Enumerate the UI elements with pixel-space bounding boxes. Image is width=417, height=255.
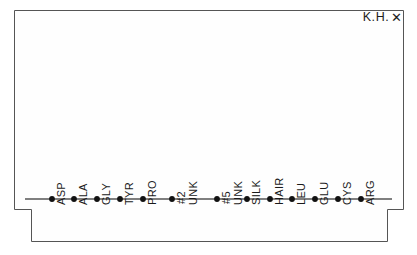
category-tick-label-line: GLU bbox=[319, 181, 331, 205]
category-tick-label-line: UNK bbox=[188, 181, 200, 205]
category-tick-label-line: PRO bbox=[147, 180, 159, 205]
figure-screenshot: K.H.✕ ASPALAGLYTYRPROUNK#2UNK#5SILKHAIRL… bbox=[0, 0, 417, 255]
category-tick-label-line: TYR bbox=[124, 182, 136, 205]
category-tick-label-line: HAIR bbox=[274, 178, 286, 205]
category-tick-label-line: SILK bbox=[251, 180, 263, 205]
category-tick-label-line: CYS bbox=[342, 181, 354, 205]
category-tick-label-line: GLY bbox=[101, 183, 113, 205]
category-tick-label-line: #2 bbox=[176, 191, 188, 204]
category-tick-label-line: UNK bbox=[233, 181, 245, 205]
category-tick-label-line: ARG bbox=[365, 180, 377, 205]
category-axis-labels: ASPALAGLYTYRPROUNK#2UNK#5SILKHAIRLEUGLUC… bbox=[0, 0, 417, 255]
category-tick-label-line: LEU bbox=[296, 183, 308, 205]
category-tick-label-line: ALA bbox=[78, 183, 90, 205]
category-tick-label-line: ASP bbox=[56, 182, 68, 205]
category-tick-label-line: #5 bbox=[221, 191, 233, 204]
